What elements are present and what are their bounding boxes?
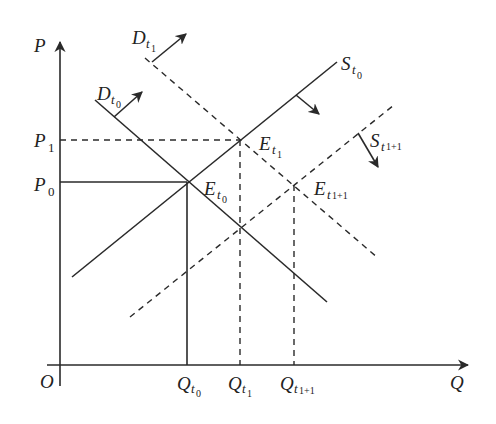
svg-text:D: D [131,27,146,48]
demand-t0-label: D t 0 [96,83,121,110]
svg-text:1+1: 1+1 [299,385,315,396]
equilibrium-t1-label: E t 1 [258,133,282,160]
qt1plus1-label: Q t 1+1 [280,373,315,396]
svg-text:1: 1 [247,388,252,399]
svg-text:Q: Q [177,373,191,394]
svg-text:t: t [191,381,195,396]
p0-label: P 0 [33,174,55,199]
supply-shift-arrow-icon [296,95,319,114]
x-axis-label: Q [450,372,464,393]
svg-text:0: 0 [222,194,227,205]
svg-text:0: 0 [196,388,201,399]
equilibrium-t1plus1-label: E t 1+1 [313,178,348,202]
origin-label: O [40,371,54,392]
y-axis-label: P [33,35,46,56]
supply-t0-label: S t 0 [341,53,362,81]
svg-text:t: t [327,187,331,202]
svg-text:E: E [313,178,326,199]
demand-t1-shift-arrow-icon [152,34,186,62]
svg-text:0: 0 [116,99,121,110]
equilibrium-t0-label: E t 0 [203,178,227,205]
p1-label: P 1 [33,130,55,155]
svg-text:t: t [217,187,221,202]
svg-text:Q: Q [228,373,242,394]
svg-text:P: P [33,174,46,195]
svg-text:D: D [96,83,111,104]
svg-text:S: S [370,130,380,151]
svg-text:0: 0 [357,70,362,81]
svg-text:t: t [111,92,115,107]
svg-text:t: t [146,36,150,51]
svg-text:Q: Q [280,373,294,394]
supply-t1plus1-label: S t 1+1 [370,130,402,154]
supply-demand-diagram: P Q O P 1 P 0 Q t 0 Q t 1 Q t 1+1 D t 0 … [0,0,496,424]
demand-t1-label: D t 1 [131,27,156,54]
svg-text:0: 0 [48,184,55,199]
svg-text:1: 1 [277,149,282,160]
qt1-label: Q t 1 [228,373,252,399]
svg-text:t: t [242,381,246,396]
qt0-label: Q t 0 [177,373,201,399]
svg-text:1: 1 [151,43,156,54]
svg-text:S: S [341,53,351,74]
svg-text:1+1: 1+1 [386,141,402,152]
demand-curve-t0 [95,100,327,302]
demand-curve-t1 [145,58,378,258]
svg-text:t: t [272,142,276,157]
svg-text:1+1: 1+1 [332,190,348,201]
svg-text:1: 1 [48,140,55,155]
svg-text:E: E [258,133,271,154]
svg-text:t: t [352,62,356,77]
svg-text:P: P [33,130,46,151]
svg-text:E: E [203,178,216,199]
svg-text:t: t [381,139,385,154]
svg-text:t: t [294,381,298,396]
